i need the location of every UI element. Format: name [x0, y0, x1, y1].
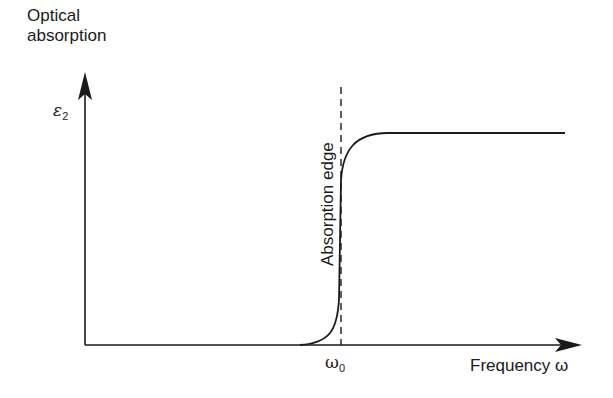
absorption-curve [300, 133, 565, 345]
omega-subscript: 0 [339, 362, 345, 374]
epsilon-symbol: ε [53, 100, 62, 120]
diagram-canvas [0, 0, 613, 398]
omega0-tick-label: ω0 [325, 352, 345, 374]
y-axis-label-line2: absorption [27, 26, 106, 46]
epsilon-2-label: ε2 [53, 100, 68, 122]
y-axis-label-line1: Optical [27, 6, 106, 26]
omega-symbol: ω [325, 352, 339, 372]
absorption-edge-label: Absorption edge [318, 142, 338, 266]
x-axis-label: Frequency ω [470, 356, 568, 376]
y-axis-label: Optical absorption [27, 6, 106, 46]
epsilon-subscript: 2 [62, 110, 68, 122]
